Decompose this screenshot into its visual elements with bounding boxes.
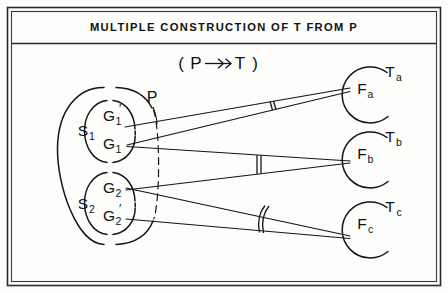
subset-s1-base: S	[78, 122, 88, 139]
construction-diagram: MULTIPLE CONSTRUCTION OF T FROM P T ) ==…	[0, 0, 448, 293]
target-b-t-subscript: b	[396, 136, 402, 148]
edge-g1-to-fa	[127, 92, 350, 146]
target-b-t-base: T	[385, 128, 395, 145]
node-g1-prime-base: G	[103, 107, 115, 124]
node-g2-prime-mark: ′	[119, 202, 122, 216]
subset-s1-subscript: 1	[89, 130, 95, 142]
subset-s1-label: S 1	[78, 122, 95, 142]
node-g2: G 2	[103, 179, 122, 199]
target-a-t-base: T	[385, 63, 395, 80]
edge-g2-to-fb	[126, 163, 350, 190]
page-title: MULTIPLE CONSTRUCTION OF T FROM P	[90, 21, 358, 33]
target-c-f-subscript: c	[368, 223, 373, 235]
tick-pair-fa	[270, 101, 276, 110]
subtitle-target-label: T	[235, 54, 245, 73]
target-c-f-base: F	[357, 215, 366, 232]
figure-inner-frame	[12, 12, 437, 282]
node-g1-subscript: 1	[116, 143, 122, 155]
target-c: F c T c	[342, 198, 401, 258]
arrow-double-head-icon	[205, 59, 231, 68]
subtitle-group: ( P T )	[178, 54, 258, 73]
domain-label-P: P	[147, 89, 158, 106]
target-a-f-subscript: a	[368, 88, 374, 100]
target-a: F a T a	[342, 63, 402, 123]
subset-s2-subscript: 2	[89, 203, 95, 215]
target-b-f-base: F	[357, 145, 366, 162]
target-b: F b T b	[342, 128, 402, 188]
target-c-t-subscript: c	[396, 206, 401, 218]
target-c-t-base: T	[385, 198, 395, 215]
node-g1: G 1	[103, 135, 122, 155]
tick-pair-fb	[257, 155, 261, 174]
node-g2-prime: G 2 ′	[103, 202, 122, 227]
target-b-f-subscript: b	[368, 153, 374, 165]
node-g2-base: G	[103, 179, 115, 196]
figure-outer-frame	[8, 8, 441, 286]
target-a-t-subscript: a	[396, 71, 402, 83]
subtitle-source-label: P	[190, 54, 201, 73]
tick-pair-fc	[259, 206, 269, 234]
subtitle-open-paren: (	[178, 54, 184, 73]
node-g2-prime-base: G	[103, 207, 115, 224]
figure-container: MULTIPLE CONSTRUCTION OF T FROM P T ) ==…	[0, 0, 448, 293]
edge-g1prime-to-fa	[125, 88, 350, 127]
node-g1-base: G	[103, 135, 115, 152]
node-g1-prime-mark: ′	[119, 102, 122, 116]
subset-s2-base: S	[78, 195, 88, 212]
node-g1-prime-subscript: 1	[116, 115, 122, 127]
edge-g1-to-fb	[127, 147, 350, 162]
node-g2-prime-subscript: 2	[116, 215, 122, 227]
subset-s2-label: S 2	[78, 195, 95, 215]
node-g2-subscript: 2	[116, 187, 122, 199]
target-a-f-base: F	[357, 80, 366, 97]
node-g1-prime: G 1 ′	[103, 102, 122, 127]
subtitle-close-paren: )	[252, 54, 258, 73]
